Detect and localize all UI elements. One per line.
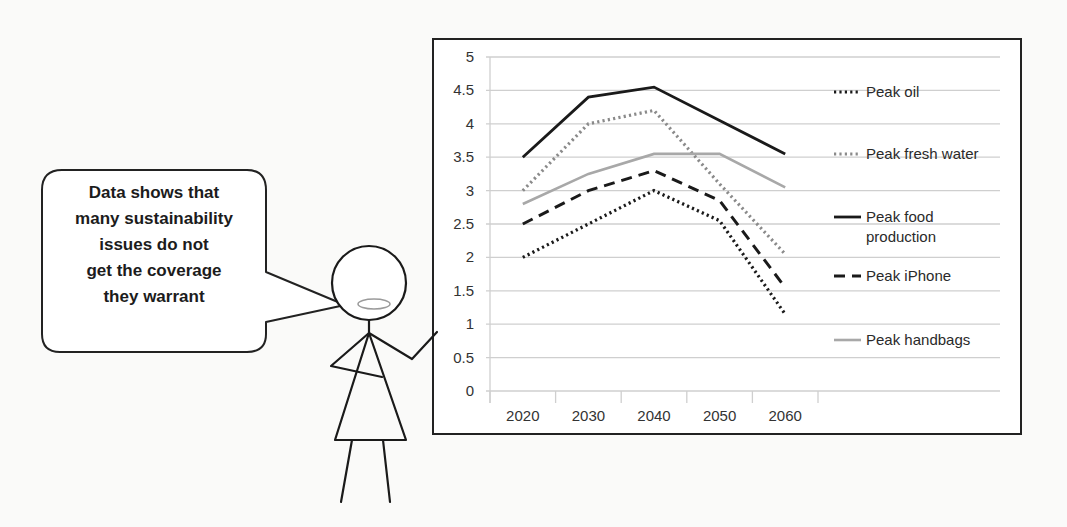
speech-line: get the coverage [42,258,266,284]
speech-bubble-text: Data shows that many sustainability issu… [42,180,266,310]
y-tick-label: 1 [466,315,474,332]
y-tick-label: 2 [466,248,474,265]
speech-line: issues do not [42,232,266,258]
legend-item: Peak foodproduction [834,208,936,245]
figure-right-leg [383,440,390,502]
figure-left-arm [331,333,382,377]
legend-label: production [866,228,936,245]
y-tick-label: 3.5 [453,148,474,165]
series-line-peak-food-production [523,87,785,157]
legend-label: Peak fresh water [866,145,979,162]
legend-item: Peak handbags [834,331,970,348]
speech-line: many sustainability [42,206,266,232]
y-tick-label: 5 [466,48,474,65]
y-tick-label: 2.5 [453,215,474,232]
x-tick-label: 2050 [703,407,736,424]
series-line-peak-fresh-water [523,110,785,254]
x-tick-label: 2040 [637,407,670,424]
chart-series [523,87,785,314]
stick-figure [331,246,437,502]
x-tick-label: 2020 [506,407,539,424]
speech-line: Data shows that [42,180,266,206]
legend-label: Peak iPhone [866,267,951,284]
y-tick-label: 1.5 [453,282,474,299]
figure-right-arm [369,332,437,359]
y-tick-label: 4.5 [453,81,474,98]
figure-left-leg [341,440,352,502]
chart-legend: Peak oilPeak fresh waterPeak foodproduct… [834,83,979,348]
speech-line: they warrant [42,284,266,310]
x-tick-label: 2060 [769,407,802,424]
legend-label: Peak oil [866,83,919,100]
y-tick-label: 0.5 [453,349,474,366]
legend-item: Peak fresh water [834,145,979,162]
legend-item: Peak oil [834,83,919,100]
x-axis-ticks: 20202030204020502060 [490,391,818,424]
series-line-peak-oil [523,191,785,315]
legend-label: Peak handbags [866,331,970,348]
y-axis-ticks: 00.511.522.533.544.55 [453,48,474,399]
y-tick-label: 4 [466,115,474,132]
legend-item: Peak iPhone [834,267,951,284]
x-tick-label: 2030 [572,407,605,424]
series-line-peak-iphone [523,171,785,288]
y-tick-label: 0 [466,382,474,399]
legend-label: Peak food [866,208,934,225]
series-line-peak-handbags [523,154,785,204]
y-tick-label: 3 [466,182,474,199]
